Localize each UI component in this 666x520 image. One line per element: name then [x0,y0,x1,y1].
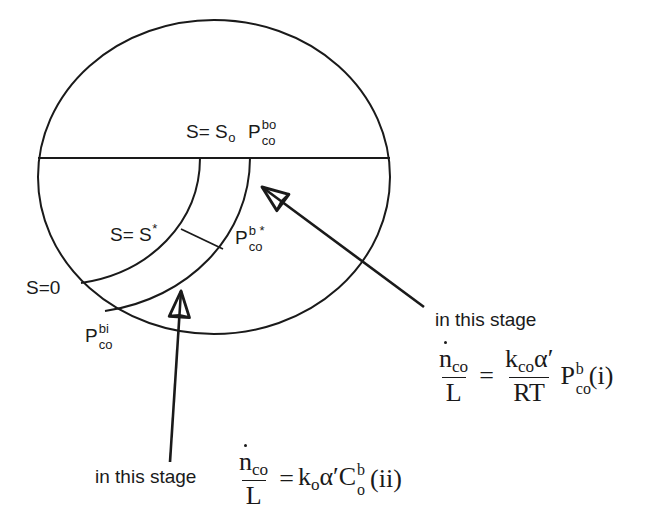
label-p-inner: Pbico [85,326,98,345]
eq-ii-lhs-denominator: L [242,480,266,509]
eq-ii-equals-sign: = [279,464,294,494]
label-s-star: S= S* [110,222,157,244]
eq-i-rhs-tail: Pbco [560,361,574,391]
label-s-outer: S= So [186,122,235,144]
label-p-star: Pb *co [235,228,248,247]
stage-two-caption: in this stage [95,466,196,488]
stage-one-caption: in this stage [435,309,536,331]
band-radial-connector-line [181,229,223,249]
eq-i-rhs-denominator: RT [509,377,549,406]
label-s-zero: S=0 [26,278,60,297]
reaction-front-inner-arc [81,158,200,283]
equation-i: nco L = kcoα′ RT Pbco (i) [432,345,613,407]
eq-i-tag: (i) [589,361,614,391]
eq-i-rhs-numerator: kcoα′ [501,345,558,377]
figure-root: S= So Pboco S= S* Pb *co S=0 Pbico in th… [0,0,666,520]
eq-ii-tag: (ii) [370,464,402,494]
eq-i-equals-sign: = [479,361,494,391]
eq-i-right-fraction: kcoα′ RT [501,345,558,407]
equation-ii: nco L = koα′Cbo (ii) [232,448,402,510]
eq-ii-left-fraction: nco L [235,448,272,510]
stage-one-leader-arrow [262,187,424,307]
eq-i-left-fraction: nco L [435,345,472,407]
eq-i-lhs-denominator: L [442,377,466,406]
eq-i-lhs-numerator: nco [435,345,472,377]
label-p-outer: Pboco [248,122,261,141]
eq-ii-rhs: koα′Cbo [298,462,356,495]
stage-two-leader-arrow [170,291,181,462]
eq-ii-lhs-numerator: nco [235,448,272,480]
particle-outer-boundary [38,20,390,334]
particle-schematic-diagram [0,0,666,520]
